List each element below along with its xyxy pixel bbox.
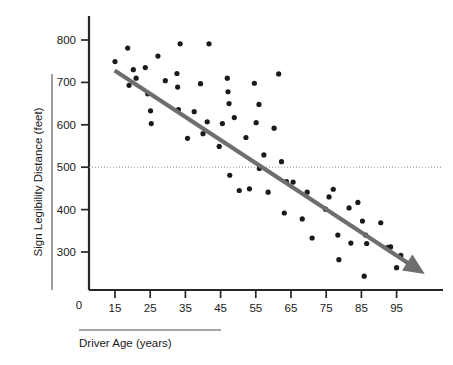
y-tick-label: 700 [57, 76, 76, 88]
data-point [149, 121, 154, 126]
data-point [291, 179, 296, 184]
x-axis-title: Driver Age (years) [79, 337, 172, 349]
data-point [247, 186, 252, 191]
data-point [131, 67, 136, 72]
data-point [362, 274, 367, 279]
x-tick-label: 85 [355, 302, 368, 314]
data-point [335, 232, 340, 237]
data-point [266, 190, 271, 195]
y-axis-ticks: 300400500600700800 [57, 34, 89, 258]
data-point [220, 121, 225, 126]
origin-label: 0 [76, 299, 82, 311]
y-tick-label: 500 [57, 161, 76, 173]
y-tick-label: 300 [57, 246, 76, 258]
data-point [331, 187, 336, 192]
data-point [148, 108, 153, 113]
x-tick-label: 65 [285, 302, 298, 314]
data-point [225, 89, 230, 94]
trend-arrow-head [402, 255, 425, 274]
data-point [134, 76, 139, 81]
data-point [217, 144, 222, 149]
data-point [355, 200, 360, 205]
trend-line-segment [115, 71, 412, 266]
data-point [232, 115, 237, 120]
data-point [175, 84, 180, 89]
trend-line-arrow [115, 71, 425, 275]
data-point [310, 235, 315, 240]
data-point [143, 65, 148, 70]
data-point [174, 71, 179, 76]
data-point [163, 78, 168, 83]
y-tick-label: 800 [57, 34, 76, 46]
x-axis-ticks: 152535455565758595 [109, 290, 403, 314]
x-tick-label: 15 [109, 302, 122, 314]
x-tick-label: 95 [390, 302, 403, 314]
data-point [282, 210, 287, 215]
data-point [206, 41, 211, 46]
data-point [125, 45, 130, 50]
data-point [348, 240, 353, 245]
data-point [256, 102, 261, 107]
x-tick-label: 55 [249, 302, 262, 314]
data-point [326, 194, 331, 199]
data-point [394, 265, 399, 270]
data-point [261, 152, 266, 157]
scatter-plot-figure: Sign Legibility Distance (feet) 0 300400… [0, 0, 453, 365]
data-point [254, 120, 259, 125]
data-point [276, 71, 281, 76]
data-point [227, 173, 232, 178]
x-tick-label: 75 [320, 302, 333, 314]
data-point [252, 81, 257, 86]
y-axis-title: Sign Legibility Distance (feet) [32, 107, 44, 256]
data-point [272, 126, 277, 131]
data-point [336, 257, 341, 262]
chart-canvas: Sign Legibility Distance (feet) 0 300400… [0, 0, 453, 365]
x-tick-label: 45 [214, 302, 227, 314]
data-point [378, 220, 383, 225]
data-point [178, 41, 183, 46]
data-point [300, 216, 305, 221]
data-point [226, 101, 231, 106]
data-point [243, 135, 248, 140]
data-point [364, 241, 369, 246]
data-point [360, 218, 365, 223]
y-tick-label: 600 [57, 119, 76, 131]
data-point [192, 109, 197, 114]
y-tick-label: 400 [57, 204, 76, 216]
data-point [279, 159, 284, 164]
data-point [155, 54, 160, 59]
data-point [237, 188, 242, 193]
data-point [185, 136, 190, 141]
data-point [346, 205, 351, 210]
x-tick-label: 35 [179, 302, 192, 314]
x-tick-label: 25 [144, 302, 157, 314]
data-point [225, 76, 230, 81]
scatter-points [112, 41, 403, 279]
data-point [205, 119, 210, 124]
data-point [112, 59, 117, 64]
data-point [198, 81, 203, 86]
